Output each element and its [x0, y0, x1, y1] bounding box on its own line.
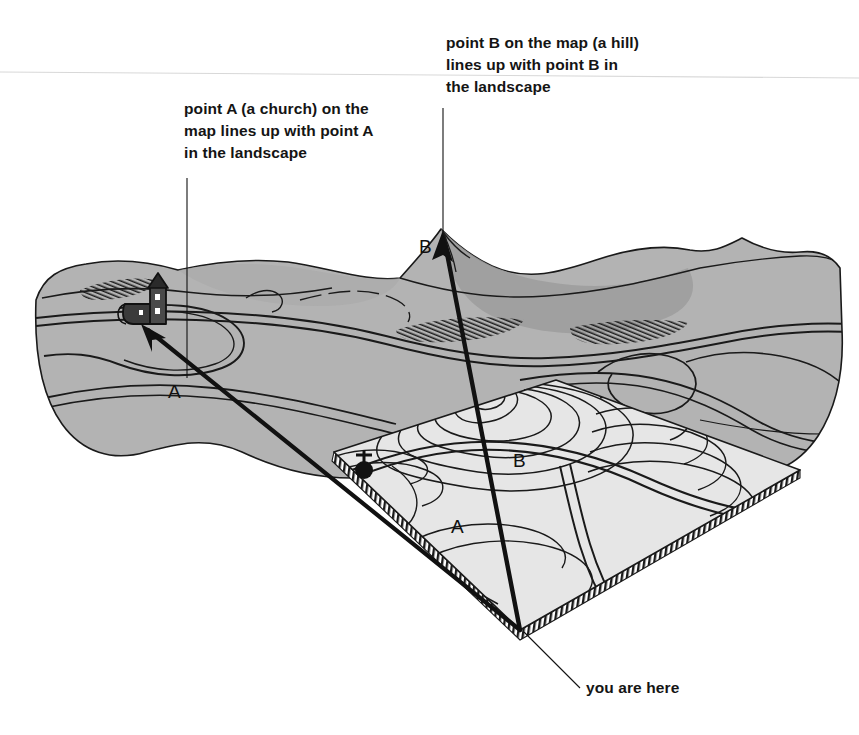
church-window-lower: [155, 308, 160, 314]
scan-artifact-line: [0, 72, 859, 78]
figure-canvas: point A (a church) on the map lines up w…: [0, 0, 859, 735]
callout-point-a: point A (a church) on the map lines up w…: [184, 98, 414, 164]
map-label-a: A: [451, 516, 464, 538]
church-map-symbol: [355, 450, 373, 479]
church-symbol-dot: [355, 461, 373, 479]
callout-point-b: point B on the map (a hill) lines up wit…: [446, 32, 696, 98]
church-tower: [150, 286, 166, 324]
leader-line-you-are-here: [524, 632, 580, 688]
church-window-nave: [139, 310, 143, 315]
landscape-label-b: B: [419, 236, 432, 258]
callout-you-are-here: you are here: [586, 677, 786, 699]
illustration: [0, 0, 859, 735]
landscape-label-a: A: [168, 381, 181, 403]
church-window-upper: [155, 294, 160, 300]
map-label-b: B: [513, 450, 526, 472]
